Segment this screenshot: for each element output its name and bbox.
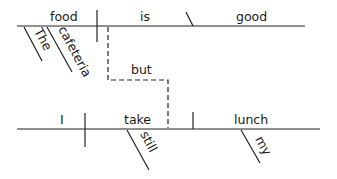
word-food: food — [50, 9, 78, 24]
word-the: The — [31, 24, 56, 53]
word-cafeteria: cafeteria — [55, 23, 94, 79]
clause1-complement-divider — [186, 12, 193, 26]
word-good: good — [236, 9, 267, 24]
word-lunch: lunch — [234, 112, 268, 127]
sentence-diagram: food is good The cafeteria but I take lu… — [0, 0, 337, 179]
word-i: I — [60, 112, 64, 127]
word-take: take — [124, 112, 151, 127]
word-still: still — [137, 128, 160, 154]
word-is: is — [140, 9, 150, 24]
word-but: but — [131, 62, 152, 77]
